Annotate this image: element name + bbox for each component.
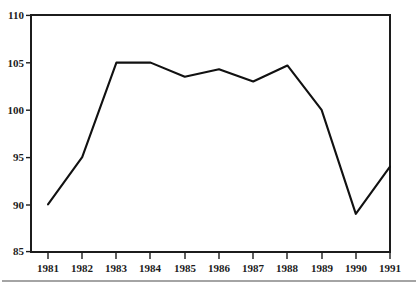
y-tick-label-90: 90 <box>13 199 25 211</box>
x-axis-ticks <box>48 252 390 259</box>
x-tick-label-1984: 1984 <box>139 262 162 274</box>
x-tick-label-1989: 1989 <box>311 262 334 274</box>
chart-figure: 110 105 100 95 90 85 1981 1982 1983 1 <box>0 0 418 286</box>
x-tick-label-1983: 1983 <box>105 262 128 274</box>
x-tick-label-1985: 1985 <box>174 262 197 274</box>
y-tick-label-95: 95 <box>13 151 25 163</box>
x-tick-label-1987: 1987 <box>242 262 265 274</box>
x-tick-label-1982: 1982 <box>71 262 94 274</box>
x-tick-label-1986: 1986 <box>208 262 231 274</box>
x-tick-label-1981: 1981 <box>37 262 59 274</box>
x-tick-label-1990: 1990 <box>345 262 368 274</box>
y-tick-label-100: 100 <box>8 104 25 116</box>
x-tick-label-1991: 1991 <box>379 262 401 274</box>
line-chart-plot: 110 105 100 95 90 85 1981 1982 1983 1 <box>0 0 418 286</box>
y-axis-tick-labels: 110 105 100 95 90 85 <box>8 9 25 257</box>
x-axis-tick-labels: 1981 1982 1983 1984 1985 1986 1987 1988 … <box>37 262 401 274</box>
y-tick-label-85: 85 <box>13 245 25 257</box>
y-tick-label-105: 105 <box>8 57 25 69</box>
x-tick-label-1988: 1988 <box>276 262 299 274</box>
plot-frame <box>31 15 390 252</box>
y-tick-label-110: 110 <box>8 9 24 21</box>
